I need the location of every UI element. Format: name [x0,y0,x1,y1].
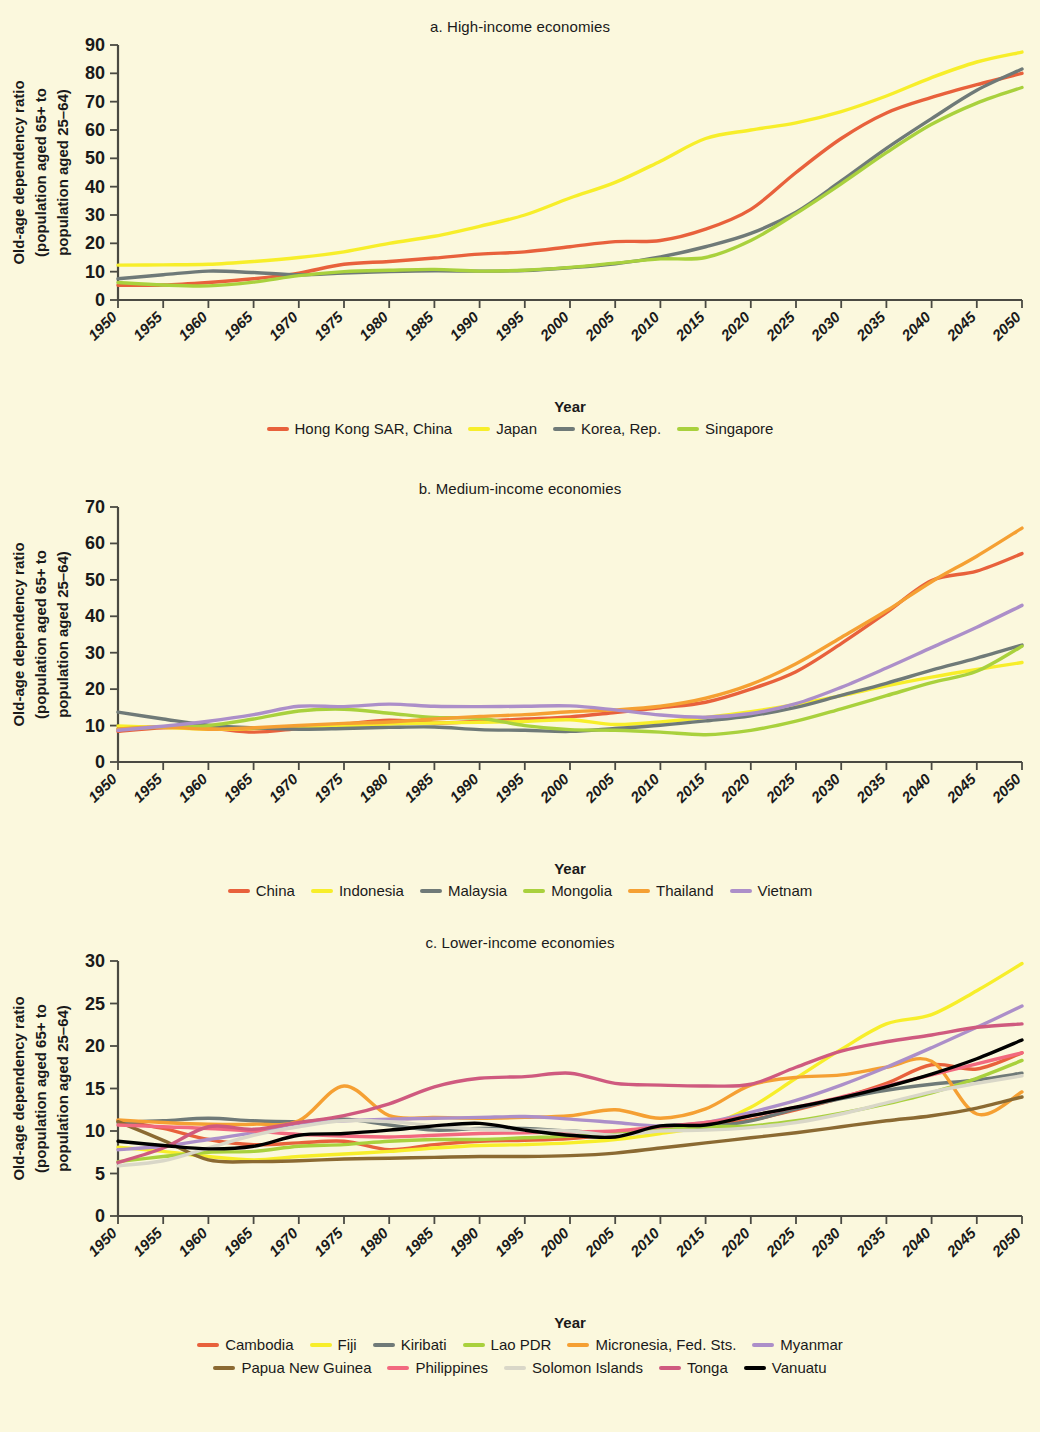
legend-swatch-icon [197,1343,219,1347]
legend-label: China [256,882,295,899]
panel-a-legend: Hong Kong SAR, ChinaJapanKorea, Rep.Sing… [0,420,1040,437]
legend-label: Kiribati [401,1336,447,1353]
legend-item: Fiji [310,1336,357,1353]
legend-label: Hong Kong SAR, China [295,420,453,437]
svg-text:1990: 1990 [446,1224,482,1260]
legend-swatch-icon [677,427,699,431]
svg-text:2000: 2000 [536,308,573,345]
legend-item: Vietnam [730,882,813,899]
svg-text:1995: 1995 [491,770,527,806]
svg-text:Old-age dependency ratio: Old-age dependency ratio [10,80,27,264]
svg-text:Year: Year [554,860,586,877]
svg-text:90: 90 [85,35,105,55]
svg-text:2030: 2030 [807,308,844,345]
legend-swatch-icon [468,427,490,431]
svg-text:2005: 2005 [581,308,618,345]
legend-label: Malaysia [448,882,507,899]
svg-text:2035: 2035 [852,1224,889,1261]
svg-text:2015: 2015 [671,1224,708,1261]
svg-text:1955: 1955 [130,308,166,344]
svg-text:80: 80 [85,63,105,83]
legend-label: Cambodia [225,1336,293,1353]
svg-text:1965: 1965 [220,770,256,806]
figure-page: a. High-income economies 010203040506070… [0,0,1040,1432]
svg-text:20: 20 [85,679,105,699]
legend-swatch-icon [311,889,333,893]
legend-label: Singapore [705,420,773,437]
svg-text:Year: Year [554,1314,586,1331]
svg-text:1960: 1960 [175,770,211,806]
svg-text:population aged 25–64): population aged 25–64) [54,551,71,718]
svg-text:2000: 2000 [536,770,573,807]
legend-swatch-icon [628,889,650,893]
legend-item: Thailand [628,882,714,899]
svg-text:1965: 1965 [220,1224,256,1260]
svg-text:(population aged 65+ to: (population aged 65+ to [32,88,49,257]
svg-text:2025: 2025 [762,770,799,807]
svg-text:Old-age dependency ratio: Old-age dependency ratio [10,996,27,1180]
legend-label: Philippines [415,1359,488,1376]
svg-text:1960: 1960 [175,1224,211,1260]
svg-text:2010: 2010 [626,308,663,345]
svg-text:1985: 1985 [401,1224,437,1260]
svg-text:1980: 1980 [356,770,392,806]
svg-text:Year: Year [554,398,586,415]
panel-medium-income: b. Medium-income economies 0102030405060… [0,478,1040,930]
series-line [118,528,1022,729]
svg-text:2030: 2030 [807,1224,844,1261]
series-line [118,73,1022,285]
svg-text:Old-age dependency ratio: Old-age dependency ratio [10,542,27,726]
panel-c-legend: CambodiaFijiKiribatiLao PDRMicronesia, F… [0,1336,1040,1376]
svg-text:1980: 1980 [356,1224,392,1260]
svg-text:1985: 1985 [401,770,437,806]
svg-text:1975: 1975 [311,1224,347,1260]
svg-text:2040: 2040 [897,1224,934,1261]
legend-item: Lao PDR [463,1336,552,1353]
svg-text:(population aged 65+ to: (population aged 65+ to [32,1004,49,1173]
legend-item: China [228,882,295,899]
svg-text:2040: 2040 [897,308,934,345]
legend-swatch-icon [310,1343,332,1347]
svg-text:2010: 2010 [626,1224,663,1261]
svg-text:20: 20 [85,1036,105,1056]
panel-high-income: a. High-income economies 010203040506070… [0,0,1040,478]
svg-text:0: 0 [95,752,105,772]
legend-item: Japan [468,420,537,437]
svg-text:60: 60 [85,120,105,140]
svg-text:10: 10 [85,262,105,282]
svg-text:2045: 2045 [943,1224,980,1261]
legend-swatch-icon [752,1343,774,1347]
svg-text:15: 15 [85,1079,105,1099]
svg-text:2050: 2050 [988,770,1025,807]
legend-item: Papua New Guinea [213,1359,371,1376]
legend-item: Myanmar [752,1336,843,1353]
legend-item: Indonesia [311,882,404,899]
svg-text:1970: 1970 [265,1224,301,1260]
legend-item: Vanuatu [744,1359,827,1376]
svg-text:20: 20 [85,233,105,253]
svg-text:1970: 1970 [265,770,301,806]
svg-text:50: 50 [85,148,105,168]
svg-text:70: 70 [85,497,105,517]
svg-text:2030: 2030 [807,770,844,807]
legend-label: Solomon Islands [532,1359,643,1376]
legend-swatch-icon [567,1343,589,1347]
legend-label: Myanmar [780,1336,843,1353]
svg-text:30: 30 [85,951,105,971]
svg-text:2020: 2020 [717,770,754,807]
svg-text:1975: 1975 [311,308,347,344]
svg-text:50: 50 [85,570,105,590]
svg-text:1955: 1955 [130,770,166,806]
panel-b-legend: ChinaIndonesiaMalaysiaMongoliaThailandVi… [0,882,1040,899]
svg-text:1995: 1995 [491,1224,527,1260]
svg-text:40: 40 [85,606,105,626]
legend-swatch-icon [373,1343,395,1347]
legend-label: Fiji [338,1336,357,1353]
svg-text:10: 10 [85,1121,105,1141]
legend-item: Korea, Rep. [553,420,661,437]
svg-text:1960: 1960 [175,308,211,344]
legend-item: Cambodia [197,1336,293,1353]
svg-text:40: 40 [85,177,105,197]
svg-text:1950: 1950 [85,1224,121,1260]
svg-text:5: 5 [95,1164,105,1184]
